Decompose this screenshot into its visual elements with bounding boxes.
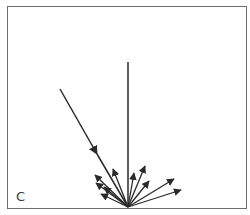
diffuse-reflection-diagram bbox=[0, 0, 250, 215]
reflected-ray-right bbox=[128, 179, 174, 207]
reflected-ray-right bbox=[128, 173, 134, 207]
panel-label: C bbox=[16, 189, 25, 204]
reflected-ray-right bbox=[128, 190, 181, 207]
incident-ray-segment bbox=[60, 89, 97, 154]
reflected-ray-right bbox=[128, 166, 145, 207]
